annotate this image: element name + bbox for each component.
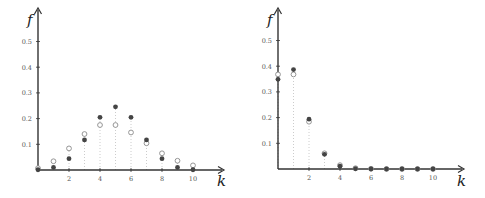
data-point-filled — [353, 166, 358, 171]
data-point-filled — [415, 167, 420, 172]
data-point-filled — [369, 167, 374, 172]
data-point-filled — [431, 167, 436, 172]
axes: fk — [266, 8, 466, 190]
y-tick-label: 0.4 — [262, 63, 272, 71]
data-point-filled — [384, 167, 389, 172]
y-tick-label: 0.5 — [262, 37, 272, 45]
chart-right: fk 2468100.10.20.30.40.5 — [0, 0, 485, 198]
y-tick-label: 0.2 — [262, 114, 272, 122]
x-axis-label: k — [457, 172, 466, 190]
x-tick-label: 6 — [369, 174, 373, 182]
y-tick-label: 0.1 — [262, 140, 272, 148]
x-tick-label: 4 — [338, 174, 342, 182]
x-tick-label: 2 — [307, 174, 311, 182]
x-tick-label: 10 — [429, 174, 437, 182]
data-point-open — [291, 72, 296, 77]
data-point-filled — [276, 77, 281, 82]
data-point-filled — [400, 167, 405, 172]
data-point-filled — [291, 67, 296, 72]
data-point-filled — [322, 152, 327, 157]
y-tick-label: 0.3 — [262, 88, 272, 96]
y-axis-label: f — [266, 11, 275, 29]
x-tick-label: 8 — [400, 174, 404, 182]
data-point-filled — [338, 164, 343, 169]
data-point-filled — [307, 117, 312, 122]
ticks: 2468100.10.20.30.40.5 — [262, 37, 437, 182]
points — [276, 67, 436, 171]
data-point-open — [276, 72, 281, 77]
